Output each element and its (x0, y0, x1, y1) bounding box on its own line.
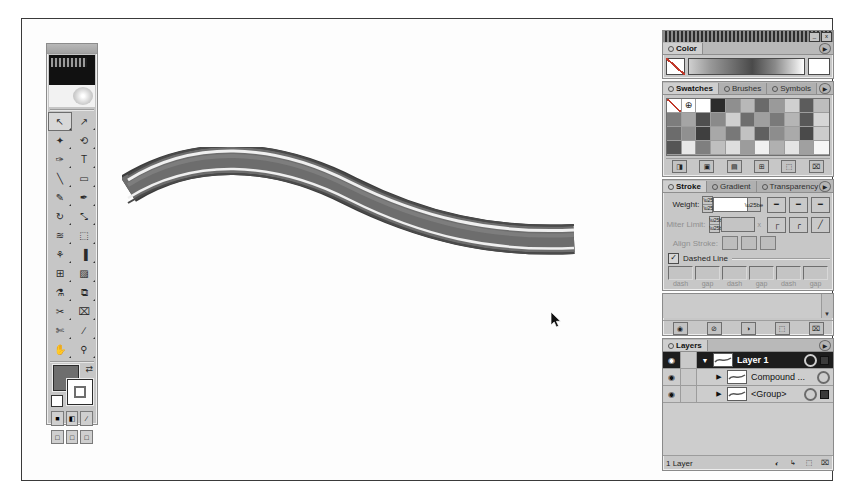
swatch-cell[interactable] (770, 113, 785, 127)
dash-input-dash[interactable] (668, 266, 693, 280)
fill-stroke-controls[interactable]: ⇄ (51, 365, 93, 409)
swatch-grid[interactable]: ⊕ (666, 98, 830, 156)
weight-stepper-down[interactable]: \u25bc (703, 205, 712, 212)
visibility-eye-icon[interactable]: ◉ (663, 352, 681, 368)
swatch-cell[interactable] (667, 127, 682, 141)
erase-tool[interactable]: ⌧ (72, 302, 96, 321)
scroll-down-arrow-icon[interactable]: ▼ (824, 311, 830, 317)
swatch-cell[interactable] (770, 141, 785, 155)
new-color-group-button[interactable]: ⊞ (754, 160, 769, 173)
swatch-cell[interactable] (800, 127, 815, 141)
layer-row[interactable]: ◉▼Layer 1 (663, 352, 833, 369)
options-of-selected-object-button[interactable]: ◑ (741, 322, 756, 335)
swatch-cell[interactable] (770, 99, 785, 113)
tab-symbols[interactable]: Symbols (767, 83, 817, 94)
zoom-tool[interactable]: ⚲ (72, 340, 96, 359)
align-stroke-buttons[interactable] (722, 236, 776, 250)
gradient-mode-button[interactable]: ◧ (66, 411, 79, 426)
lock-toggle-cell[interactable] (681, 352, 697, 368)
bevel-join-button[interactable]: ╱ (811, 217, 830, 233)
swatch-cell[interactable] (755, 141, 770, 155)
dash-input-gap[interactable] (695, 266, 720, 280)
swatch-cell[interactable] (800, 113, 815, 127)
dash-input-dash[interactable] (776, 266, 801, 280)
scale-tool[interactable]: ⤡ (72, 207, 96, 226)
white-color-swatch[interactable] (808, 58, 830, 75)
pencil-tool[interactable]: ✒ (72, 188, 96, 207)
swatches-palette-tabs[interactable]: SwatchesBrushesSymbols ▶ (663, 82, 833, 95)
weight-row[interactable]: Weight: \u25b2 \u25bc \u25be ━━━ (666, 196, 830, 213)
stroke-palette-tabs[interactable]: StrokeGradientTransparency ▶ (663, 180, 833, 193)
swatch-cell[interactable] (755, 99, 770, 113)
layer-row[interactable]: ◉▶Compound ... (663, 369, 833, 386)
layer-list[interactable]: ◉▼Layer 1◉▶Compound ...◉▶<Group> (663, 352, 833, 403)
tab-swatches[interactable]: Swatches (663, 83, 719, 94)
swatch-cell[interactable] (785, 141, 800, 155)
gradient-tool[interactable]: ▨ (72, 264, 96, 283)
toolbox-titlebar[interactable] (47, 44, 97, 54)
palette-titlebar[interactable]: _ x (663, 31, 833, 42)
layer-row[interactable]: ◉▶<Group> (663, 386, 833, 403)
swatches-footer[interactable]: ◨▣▤⊞⬚⌧ (666, 158, 830, 173)
swatch-cell[interactable] (741, 141, 756, 155)
swatch-cell[interactable] (667, 113, 682, 127)
stroke-palette-body[interactable]: Weight: \u25b2 \u25bc \u25be ━━━ Miter L… (663, 193, 833, 290)
projecting-cap-button[interactable]: ━ (811, 197, 830, 213)
knife-tool[interactable]: ∕ (72, 321, 96, 340)
lasso-tool[interactable]: ⟲ (72, 131, 96, 150)
tab-brushes[interactable]: Brushes (719, 83, 767, 94)
color-palette-tabs[interactable]: Color ▶ (663, 42, 833, 55)
miter-stepper[interactable]: \u25b2 \u25bc (709, 216, 720, 233)
layer-target-circle-icon[interactable] (804, 354, 817, 367)
new-swatch-button[interactable]: ⬚ (781, 160, 796, 173)
swatch-cell[interactable] (814, 113, 829, 127)
swatch-cell[interactable] (814, 141, 829, 155)
swatch-cell[interactable] (682, 127, 697, 141)
dash-pattern-inputs[interactable] (666, 266, 830, 280)
warp-tool[interactable]: ≋ (48, 226, 72, 245)
expand-triangle-down-icon[interactable]: ▼ (697, 357, 713, 364)
magic-wand-tool[interactable]: ✦ (48, 131, 72, 150)
create-new-sublayer-button[interactable]: ↳ (785, 458, 801, 469)
swatch-cell[interactable] (696, 141, 711, 155)
default-fill-stroke-icon[interactable] (51, 395, 63, 407)
dash-input-gap[interactable] (803, 266, 828, 280)
swap-fill-stroke-icon[interactable]: ⇄ (85, 364, 93, 374)
tab-layers[interactable]: Layers (663, 340, 708, 351)
none-mode-button[interactable]: ∕ (80, 411, 93, 426)
swatch-cell[interactable] (726, 113, 741, 127)
miter-stepper-up[interactable]: \u25b2 (710, 217, 719, 225)
paintbrush-tool[interactable]: ✎ (48, 188, 72, 207)
miter-stepper-down[interactable]: \u25bc (710, 225, 719, 232)
round-join-button[interactable]: ╭ (789, 217, 808, 233)
brushes-palette[interactable]: ▼ ◉⊘◑⬚⌧ (662, 293, 834, 336)
direct-selection-tool[interactable]: ↗ (72, 112, 96, 131)
toolbox-palette[interactable]: ↖↗✦⟲✑T╲▭✎✒↻⤡≋⬚⚘▐⊞▨⚗⧉✂⌧✄∕✋⚲ ⇄ ■◧∕ □□□ (46, 43, 98, 425)
swatch-cell[interactable] (814, 127, 829, 141)
swatch-cell[interactable] (711, 127, 726, 141)
miter-row[interactable]: Miter Limit: \u25b2 \u25bc x ┌╭╱ (666, 216, 830, 233)
color-spectrum-ramp[interactable] (688, 58, 805, 75)
pen-tool[interactable]: ✑ (48, 150, 72, 169)
join-buttons[interactable]: ┌╭╱ (767, 217, 830, 233)
rectangle-tool[interactable]: ▭ (72, 169, 96, 188)
selection-tool[interactable]: ↖ (48, 112, 72, 131)
visibility-eye-icon[interactable]: ◉ (663, 369, 681, 385)
tab-color[interactable]: Color (663, 43, 703, 54)
dashed-line-checkbox[interactable]: ✓ (668, 253, 679, 264)
swatch-cell[interactable] (682, 141, 697, 155)
tab-gradient[interactable]: Gradient (707, 181, 757, 192)
swatch-cell[interactable] (770, 127, 785, 141)
swatch-cell[interactable] (741, 99, 756, 113)
swatch-cell[interactable] (741, 127, 756, 141)
stroke-palette[interactable]: StrokeGradientTransparency ▶ Weight: \u2… (662, 179, 834, 291)
swatch-library-button[interactable]: ◨ (672, 160, 687, 173)
weight-stepper-up[interactable]: \u25b2 (703, 197, 712, 205)
brush-libraries-button[interactable]: ◉ (673, 322, 688, 335)
tool-grid[interactable]: ↖↗✦⟲✑T╲▭✎✒↻⤡≋⬚⚘▐⊞▨⚗⧉✂⌧✄∕✋⚲ (47, 112, 97, 359)
swatch-cell[interactable] (711, 141, 726, 155)
swatch-cell[interactable] (667, 141, 682, 155)
brushes-list-area[interactable]: ▼ (663, 294, 833, 318)
swatch-cell[interactable] (726, 99, 741, 113)
slice-tool[interactable]: ✂ (48, 302, 72, 321)
